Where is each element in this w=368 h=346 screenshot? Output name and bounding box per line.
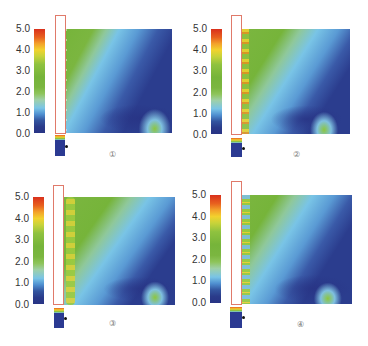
contour-field bbox=[242, 195, 352, 304]
wall-outline bbox=[55, 15, 66, 134]
colorbar bbox=[34, 29, 45, 133]
colorbar-tick: 4.0 bbox=[185, 45, 207, 55]
colorbar-tick: 2.0 bbox=[184, 255, 206, 265]
colorbar-tick: 2.0 bbox=[8, 87, 30, 97]
colorbar-tick: 4.0 bbox=[184, 212, 206, 222]
contour-panel-1: 5.0 4.0 3.0 2.0 1.0 0.0 ① bbox=[0, 0, 184, 173]
contour-panel-2: 5.0 4.0 3.0 2.0 1.0 0.0 ② bbox=[184, 0, 368, 173]
colorbar-tick: 5.0 bbox=[7, 192, 29, 202]
colorbar-tick: 1.0 bbox=[185, 109, 207, 119]
colorbar bbox=[33, 197, 44, 304]
colorbar-tick: 1.0 bbox=[7, 278, 29, 288]
colorbar-tick: 5.0 bbox=[184, 190, 206, 200]
colorbar-tick: 2.0 bbox=[7, 257, 29, 267]
colorbar-tick: 0.0 bbox=[185, 130, 207, 140]
colorbar-tick: 0.0 bbox=[8, 129, 30, 139]
colorbar-tick: 5.0 bbox=[185, 24, 207, 34]
wall-outline bbox=[53, 185, 64, 305]
colorbar bbox=[210, 195, 221, 303]
colorbar-tick: 5.0 bbox=[8, 24, 30, 34]
colorbar-tick: 0.0 bbox=[184, 298, 206, 308]
colorbar-tick: 0.0 bbox=[7, 300, 29, 310]
colorbar-tick: 3.0 bbox=[8, 66, 30, 76]
contour-panel-3: 5.0 4.0 3.0 2.0 1.0 0.0 ③ bbox=[0, 173, 184, 346]
panel-label: ② bbox=[288, 150, 304, 159]
wall-outline bbox=[231, 181, 242, 305]
contour-panel-4: 5.0 4.0 3.0 2.0 1.0 0.0 ④ bbox=[184, 173, 368, 346]
colorbar bbox=[211, 29, 222, 134]
contour-field bbox=[64, 29, 172, 133]
colorbar-tick: 1.0 bbox=[184, 276, 206, 286]
contour-field bbox=[64, 197, 175, 305]
foot-block bbox=[231, 138, 242, 157]
foot-block bbox=[54, 308, 64, 328]
panel-label: ③ bbox=[104, 319, 120, 328]
colorbar-tick: 3.0 bbox=[184, 233, 206, 243]
colorbar-tick: 4.0 bbox=[8, 45, 30, 55]
colorbar-tick: 2.0 bbox=[185, 88, 207, 98]
colorbar-tick: 3.0 bbox=[185, 66, 207, 76]
foot-block bbox=[230, 307, 242, 328]
wall-outline bbox=[231, 15, 242, 135]
colorbar-tick: 3.0 bbox=[7, 235, 29, 245]
panel-label: ④ bbox=[292, 320, 308, 329]
colorbar-tick: 1.0 bbox=[8, 108, 30, 118]
contour-field bbox=[242, 29, 350, 134]
foot-block bbox=[55, 135, 65, 156]
panel-label: ① bbox=[104, 150, 120, 159]
colorbar-tick: 4.0 bbox=[7, 214, 29, 224]
